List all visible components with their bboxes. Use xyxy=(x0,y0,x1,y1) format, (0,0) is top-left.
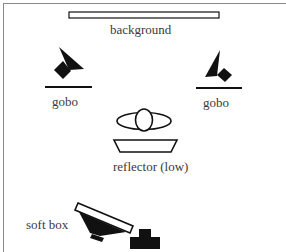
gobo-right-bar xyxy=(196,87,242,89)
subject-icon xyxy=(117,109,171,131)
gobo-left-label: gobo xyxy=(52,95,78,109)
background-panel xyxy=(69,12,219,18)
left-light-icon xyxy=(54,47,84,79)
right-light-icon xyxy=(205,50,232,82)
reflector-label: reflector (low) xyxy=(113,160,188,174)
lighting-diagram: background gobo gobo reflector (low) sof… xyxy=(0,0,286,252)
soft-box-label: soft box xyxy=(26,218,68,232)
gobo-left-bar xyxy=(45,86,92,88)
diagram-canvas xyxy=(0,0,286,252)
camera-icon xyxy=(130,229,160,249)
background-label: background xyxy=(110,23,171,37)
soft-box-icon xyxy=(75,203,133,242)
gobo-right-label: gobo xyxy=(203,96,229,110)
reflector-icon xyxy=(114,140,177,152)
